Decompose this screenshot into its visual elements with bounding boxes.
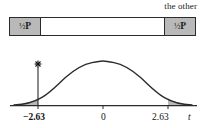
tick-label-negative: −2.63: [23, 112, 45, 122]
tick-label-zero: 0: [101, 112, 106, 122]
star-icon: [35, 61, 42, 68]
p-value-bar-right-label: ½P: [174, 21, 186, 31]
p-value-bar-middle: [41, 18, 164, 35]
p-value-left-symbol: P: [25, 20, 31, 30]
p-value-bar-left-cell: ½P: [10, 18, 41, 35]
pbar-annotation-label: the other: [164, 1, 197, 11]
x-axis-label: t: [188, 112, 191, 122]
p-value-bar: ½P ½P: [9, 17, 196, 36]
tick-label-positive: 2.63: [152, 112, 169, 122]
bell-curve: [14, 61, 192, 105]
p-value-right-symbol: P: [180, 20, 186, 30]
statistics-figure: the other ½P ½P: [0, 0, 206, 128]
p-value-bar-right-cell: ½P: [164, 18, 195, 35]
p-value-bar-left-label: ½P: [19, 21, 31, 31]
